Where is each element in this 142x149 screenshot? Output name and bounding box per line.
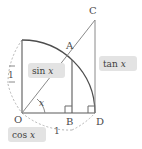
trig-diagram-figure: O A B C D 1 1 x sinx tanx cosx — [0, 0, 142, 149]
sin-label-text: sinx — [32, 66, 53, 76]
dashed-arc-bottom-right — [72, 113, 95, 130]
vertex-label-D: D — [96, 116, 104, 127]
right-angle-marker-D — [88, 106, 95, 113]
tan-label-var: x — [121, 59, 126, 69]
cos-label-group: cosx — [8, 127, 46, 142]
label-angle-x: x — [39, 98, 44, 108]
diagram-canvas: O A B C D 1 1 x sinx tanx cosx — [0, 0, 142, 149]
tan-label-prefix: tan — [103, 59, 118, 69]
cos-label-text: cosx — [12, 130, 35, 140]
vertex-label-C: C — [89, 5, 97, 16]
dashed-arc-left — [8, 84, 22, 113]
sin-label-group: sinx — [28, 63, 65, 78]
cos-label-prefix: cos — [12, 130, 27, 140]
tan-label-text: tanx — [103, 59, 126, 69]
right-angle-marker-B — [65, 106, 72, 113]
vertex-label-A: A — [65, 40, 74, 51]
vertex-label-O: O — [14, 114, 22, 125]
label-radius-vertical-1: 1 — [8, 70, 14, 80]
tan-label-group: tanx — [99, 56, 137, 71]
vertex-label-B: B — [66, 116, 73, 127]
cos-label-var: x — [30, 130, 35, 140]
sin-label-prefix: sin — [32, 66, 45, 76]
sin-label-var: x — [48, 66, 53, 76]
label-arc-length-1: 1 — [54, 126, 60, 136]
